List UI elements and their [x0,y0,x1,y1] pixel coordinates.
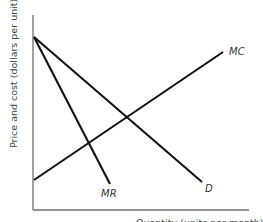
mc-label: MC [229,46,245,57]
mr-label: MR [101,188,117,199]
monopoly-pricing-chart: MC MR D Price and cost (dollars per unit… [0,0,263,222]
marginal-cost-curve [34,52,223,180]
y-axis-label: Price and cost (dollars per unit) [8,0,19,148]
x-axis-label: Quantity (units per month) [136,217,263,222]
d-label: D [205,183,213,194]
marginal-revenue-curve [34,37,110,184]
demand-curve [34,37,202,182]
